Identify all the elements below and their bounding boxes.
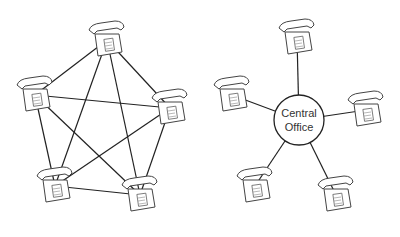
hub-label-line2: Office [285, 121, 314, 133]
telephone-icon [37, 167, 72, 202]
telephone-icon [17, 76, 52, 111]
central-office-hub: Central Office [274, 95, 324, 145]
telephone-icon [348, 91, 383, 126]
telephone-icon [214, 76, 249, 111]
telephone-icon [279, 19, 314, 54]
telephone-icon [318, 176, 353, 211]
mesh-phones [17, 21, 187, 211]
telephone-icon [89, 21, 124, 56]
hub-label-line1: Central [281, 107, 316, 119]
network-diagram: Central Office [0, 0, 400, 237]
telephone-icon [237, 167, 272, 202]
